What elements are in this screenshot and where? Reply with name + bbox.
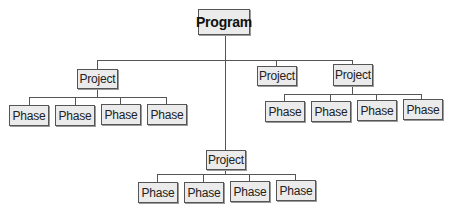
connector-p1-phase2 (75, 97, 76, 105)
phase-node: Phase (311, 101, 351, 122)
phase-node: Phase (230, 181, 270, 202)
phase-node: Phase (101, 104, 141, 125)
connector-project3-down (352, 86, 353, 94)
phase-node: Phase (147, 104, 187, 125)
project-node-4: Project (206, 150, 246, 170)
connector-project1-phases-bar (29, 97, 167, 98)
connector-program-down (225, 35, 226, 150)
project-node-3: Project (333, 64, 373, 86)
connector-p3-phase1 (284, 94, 285, 101)
connector-project4-phases-bar (157, 174, 296, 175)
connector-project1-down (97, 89, 98, 97)
phase-node: Phase (357, 100, 397, 121)
phase-node: Phase (138, 182, 178, 203)
connector-p3-phase2 (330, 94, 331, 101)
project-node-2: Project (257, 66, 297, 86)
connector-projects-bar (97, 60, 353, 61)
connector-project3-phases-bar (284, 94, 422, 95)
connector-project1-up (97, 60, 98, 69)
phase-node: Phase (276, 180, 316, 201)
phase-node: Phase (9, 105, 49, 126)
connector-p4-phase2 (203, 174, 204, 182)
connector-p1-phase1 (29, 97, 30, 105)
phase-node: Phase (184, 182, 224, 203)
phase-node: Phase (265, 101, 305, 122)
phase-node: Phase (403, 99, 443, 120)
project-node-1: Project (77, 69, 118, 89)
program-node: Program (198, 9, 250, 35)
phase-node: Phase (55, 105, 95, 126)
connector-p4-phase1 (157, 174, 158, 182)
